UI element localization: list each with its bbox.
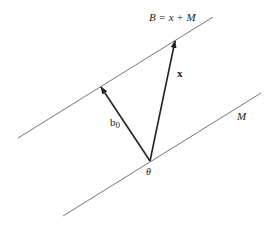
affine-set-label: B = x + M	[149, 11, 196, 23]
subspace-line-M	[63, 93, 261, 216]
origin-label: θ	[146, 166, 151, 177]
subspace-label: M	[236, 110, 247, 122]
b0-vector-label: b0	[110, 116, 121, 130]
x-vector-label: x	[177, 67, 183, 79]
vector-b0-arrow	[101, 87, 150, 161]
vector-x-arrow	[150, 41, 175, 161]
diagram-canvas: B = x + M x b0 M θ	[0, 0, 274, 228]
